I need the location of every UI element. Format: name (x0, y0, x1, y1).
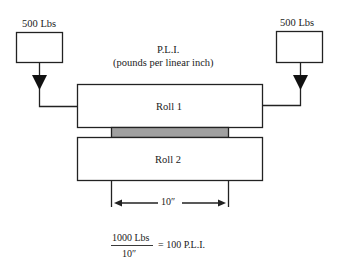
dimension-arrow-left-icon (114, 200, 122, 207)
left-load-connector (40, 63, 78, 107)
formula-result: = 100 P.L.I. (158, 240, 205, 250)
right-load-box (277, 32, 323, 63)
right-down-arrow-icon (293, 75, 308, 90)
formula-denominator: 10″ (122, 249, 136, 259)
left-down-arrow-icon (32, 75, 47, 90)
right-load-connector (263, 63, 301, 106)
left-load-box (17, 33, 63, 63)
diagram-canvas (0, 0, 337, 269)
title-pli: P.L.I. (157, 45, 179, 56)
roll-2-label: Roll 2 (155, 155, 181, 166)
dimension-arrow-right-icon (218, 200, 226, 207)
nip-contact-area (112, 128, 229, 138)
right-load-label: 500 Lbs (280, 18, 314, 29)
roll-1-label: Roll 1 (156, 102, 182, 113)
title-subtitle: (pounds per linear inch) (113, 58, 214, 69)
dimension-label: 10″ (161, 197, 175, 207)
left-load-label: 500 Lbs (22, 19, 56, 30)
formula-numerator: 1000 Lbs (112, 233, 150, 243)
